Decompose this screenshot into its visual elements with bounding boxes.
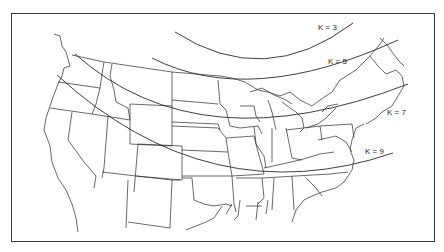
mt-dakotas xyxy=(172,72,220,130)
ut-co-line xyxy=(134,144,138,192)
label-k5: K = 5 xyxy=(328,57,347,66)
contour-k7 xyxy=(75,54,408,118)
canada-border-east xyxy=(220,38,384,106)
label-k7: K = 7 xyxy=(387,108,406,117)
wy-box xyxy=(130,104,172,146)
az-nm xyxy=(102,172,180,228)
us-contour-map: K = 3 K = 5 K = 7 K = 9 xyxy=(0,0,444,252)
ms-al-ga xyxy=(272,176,322,210)
ky-tn xyxy=(262,152,348,178)
gulf-coast xyxy=(186,200,304,230)
ne-ks xyxy=(172,126,232,176)
label-k9: K = 9 xyxy=(365,147,384,156)
pacific-coast xyxy=(44,34,78,232)
maine-coast xyxy=(380,38,404,66)
idaho-montana xyxy=(110,64,130,120)
figure-caption-cutoff xyxy=(0,247,444,252)
ok-tx xyxy=(182,176,236,212)
washington-north xyxy=(72,55,220,76)
il-in-oh xyxy=(254,126,322,168)
k-contours xyxy=(57,23,408,172)
pa-ny-va xyxy=(318,124,354,152)
atlantic-coast xyxy=(304,124,364,200)
co-box xyxy=(136,144,182,180)
ut-nv-line xyxy=(102,116,108,178)
or-ca-nv-line xyxy=(50,108,130,120)
label-k3: K = 3 xyxy=(318,23,337,32)
state-boundaries xyxy=(44,34,404,232)
nv-ca-diagonal xyxy=(68,112,96,188)
or-wa-line xyxy=(58,82,100,88)
